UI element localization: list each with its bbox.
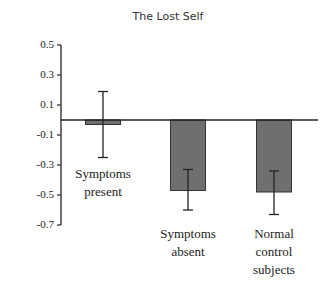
category-label-line: control <box>229 243 319 261</box>
category-label: Symptomsabsent <box>143 225 233 261</box>
y-tick-label: -0.3 <box>14 158 54 170</box>
category-label-line: Symptoms <box>58 165 148 183</box>
category-label-line: Normal <box>229 225 319 243</box>
category-label: Symptomspresent <box>58 165 148 201</box>
category-label-line: Symptoms <box>143 225 233 243</box>
y-tick-label: 0.5 <box>14 38 54 50</box>
category-label-line: absent <box>143 243 233 261</box>
y-tick-label: -0.1 <box>14 128 54 140</box>
y-tick-label: -0.7 <box>14 218 54 230</box>
y-tick-label: 0.1 <box>14 98 54 110</box>
y-tick-label: 0.3 <box>14 68 54 80</box>
y-tick-label: -0.5 <box>14 188 54 200</box>
category-label-line: present <box>58 183 148 201</box>
category-label-line: subjects <box>229 261 319 279</box>
category-label: Normalcontrolsubjects <box>229 225 319 279</box>
